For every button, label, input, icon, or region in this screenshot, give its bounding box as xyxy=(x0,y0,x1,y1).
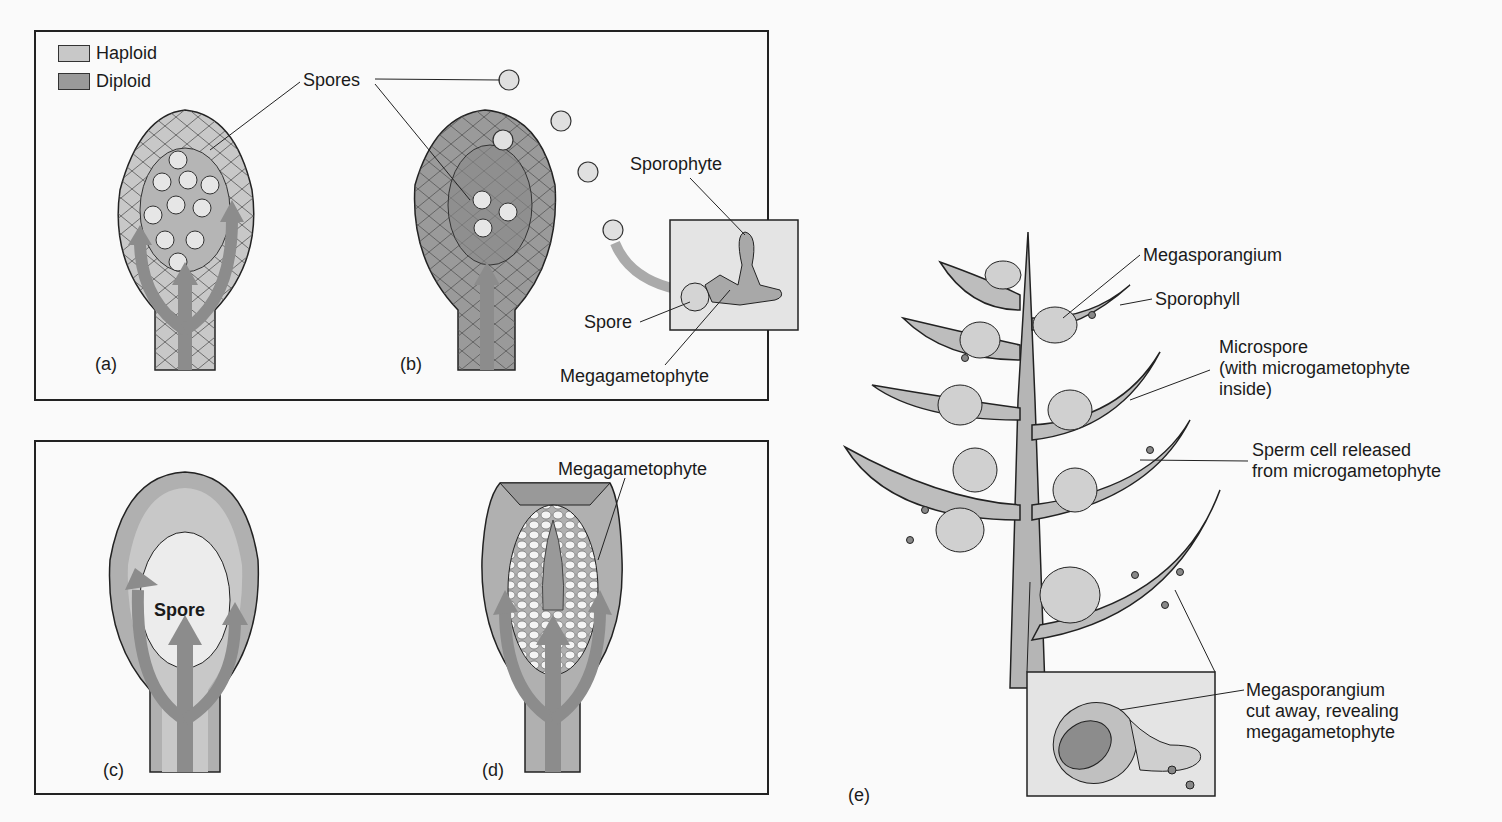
label-megagametophyte-bottom: Megagametophyte xyxy=(558,459,707,480)
label-megasporangium: Megasporangium xyxy=(1143,245,1282,266)
label-megagametophyte-top: Megagametophyte xyxy=(560,366,709,387)
haploid-swatch xyxy=(58,45,90,62)
germination-inset xyxy=(670,220,798,330)
label-spore: Spore xyxy=(584,312,632,333)
sporangium-b xyxy=(415,110,556,370)
label-b: (b) xyxy=(400,354,422,375)
legend-label: Diploid xyxy=(96,71,151,92)
label-e: (e) xyxy=(848,785,870,806)
label-spore-inner: Spore xyxy=(154,600,205,621)
legend-label: Haploid xyxy=(96,43,157,64)
label-sporophyte: Sporophyte xyxy=(630,154,722,175)
sporangium-d xyxy=(482,483,622,772)
label-microspore: Microspore (with microgametophyte inside… xyxy=(1219,337,1410,400)
legend-diploid: Diploid xyxy=(58,71,151,92)
label-sperm-cell: Sperm cell released from microgametophyt… xyxy=(1252,440,1441,482)
diploid-swatch xyxy=(58,73,90,90)
label-c: (c) xyxy=(103,760,124,781)
label-cutaway: Megasporangium cut away, revealing megag… xyxy=(1246,680,1399,743)
label-sporophyll: Sporophyll xyxy=(1155,289,1240,310)
label-a: (a) xyxy=(95,354,117,375)
sporangium-c xyxy=(110,472,259,772)
label-spores: Spores xyxy=(303,70,360,91)
label-d: (d) xyxy=(482,760,504,781)
legend-haploid: Haploid xyxy=(58,43,157,64)
sporangium-a xyxy=(118,110,254,370)
